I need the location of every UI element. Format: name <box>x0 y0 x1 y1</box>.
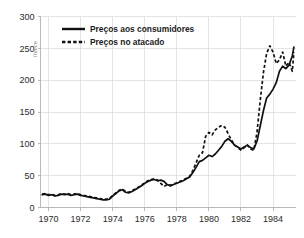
y-tick-label: 150 <box>19 107 34 117</box>
x-tick-label: 1978 <box>167 214 187 224</box>
x-axis-ticks: 19701972197419761978198019821984 <box>39 208 284 224</box>
x-tick-label: 1970 <box>39 214 59 224</box>
y-axis-title: índice <box>32 40 38 57</box>
line-chart: 0501001502002503001970197219741976197819… <box>0 0 304 238</box>
y-tick-label: 50 <box>24 171 34 181</box>
x-tick-label: 1974 <box>103 214 123 224</box>
x-tick-label: 1984 <box>263 214 283 224</box>
x-tick-label: 1980 <box>199 214 219 224</box>
legend-label: Preços aos consumidores <box>90 24 195 34</box>
y-tick-label: 100 <box>19 139 34 149</box>
legend-label: Preços no atacado <box>90 37 164 47</box>
x-tick-label: 1982 <box>231 214 251 224</box>
y-tick-label: 200 <box>19 75 34 85</box>
chart-container: 0501001502002503001970197219741976197819… <box>0 0 304 238</box>
x-tick-label: 1976 <box>135 214 155 224</box>
y-tick-label: 0 <box>29 203 34 213</box>
y-tick-label: 300 <box>19 12 34 22</box>
x-tick-label: 1972 <box>71 214 91 224</box>
